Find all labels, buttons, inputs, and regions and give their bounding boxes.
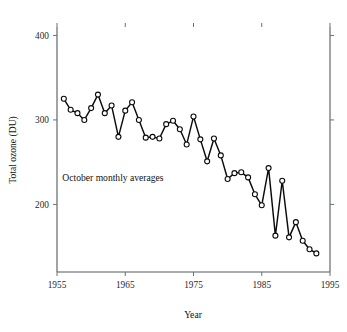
data-point-marker — [191, 114, 196, 119]
chart-canvas: 200300400 19551965197519851995 Total ozo… — [0, 0, 347, 332]
y-tick-label: 400 — [35, 31, 49, 41]
data-point-marker — [102, 111, 107, 116]
data-point-marker — [171, 118, 176, 123]
x-axis-title: Year — [184, 309, 202, 320]
data-point-marker — [246, 175, 251, 180]
data-point-marker — [150, 134, 155, 139]
data-point-marker — [89, 106, 94, 111]
data-point-marker — [307, 247, 312, 252]
data-point-marker — [287, 235, 292, 240]
data-point-marker — [177, 127, 182, 132]
data-point-marker — [164, 122, 169, 127]
y-tick-label: 200 — [35, 200, 49, 210]
x-tick-label: 1975 — [184, 280, 203, 290]
data-point-marker — [252, 192, 257, 197]
data-point-marker — [82, 117, 87, 122]
data-point-marker — [130, 100, 135, 105]
data-point-marker — [218, 153, 223, 158]
data-point-marker — [273, 233, 278, 238]
x-tick-label: 1985 — [252, 280, 271, 290]
data-point-marker — [143, 135, 148, 140]
data-point-marker — [75, 111, 80, 116]
data-point-marker — [239, 170, 244, 175]
data-point-marker — [205, 159, 210, 164]
ozone-chart-figure: 200300400 19551965197519851995 Total ozo… — [0, 0, 347, 332]
data-point-marker — [68, 107, 73, 112]
data-point-marker — [109, 103, 114, 108]
x-tick-label: 1955 — [48, 280, 67, 290]
x-tick-label: 1995 — [321, 280, 340, 290]
data-point-marker — [300, 238, 305, 243]
data-point-marker — [61, 96, 66, 101]
annotation-october-monthly-averages: October monthly averages — [62, 172, 163, 183]
y-tick-label: 300 — [35, 115, 49, 125]
data-point-marker — [184, 142, 189, 147]
data-point-marker — [314, 251, 319, 256]
data-point-marker — [123, 108, 128, 113]
y-axis-title: Total ozone (DU) — [7, 116, 19, 184]
data-point-marker — [280, 178, 285, 183]
x-tick-label: 1965 — [116, 280, 135, 290]
data-point-marker — [116, 134, 121, 139]
data-point-marker — [157, 136, 162, 141]
data-point-marker — [293, 220, 298, 225]
data-point-marker — [259, 203, 264, 208]
data-point-marker — [136, 117, 141, 122]
data-point-marker — [225, 177, 230, 182]
data-point-marker — [211, 136, 216, 141]
data-point-marker — [232, 171, 237, 176]
data-point-marker — [198, 137, 203, 142]
data-point-marker — [266, 166, 271, 171]
data-point-marker — [95, 92, 100, 97]
